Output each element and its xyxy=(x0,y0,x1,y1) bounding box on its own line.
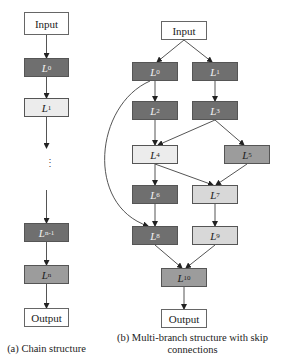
edge-l8-l10 xyxy=(155,245,182,268)
chain-input-node: Input xyxy=(24,12,69,35)
edge-l3-l4 xyxy=(158,120,215,145)
chain-node-l0: L0 xyxy=(24,58,69,77)
node-subscript: n-1 xyxy=(45,229,54,237)
chain-node-ln-1: Ln-1 xyxy=(24,223,69,242)
edge-input-l1 xyxy=(184,40,212,62)
chain-node-ln: Ln xyxy=(24,265,69,284)
mb-node-l0: L0 xyxy=(132,62,178,81)
chain-node-l1: L1 xyxy=(24,98,69,117)
mb-node-l3: L3 xyxy=(192,101,238,120)
mb-caption-line2: connections xyxy=(98,344,287,356)
node-subscript: 10 xyxy=(184,274,191,282)
node-subscript: 3 xyxy=(216,107,220,115)
edge-input-l0 xyxy=(157,40,184,62)
mb-input-node: Input xyxy=(161,21,207,40)
chain-input-label: Input xyxy=(35,18,58,30)
edge-l3-l5 xyxy=(215,120,244,145)
node-subscript: 0 xyxy=(48,64,52,72)
mb-node-l5: L5 xyxy=(224,145,270,164)
mb-node-l10: L10 xyxy=(161,268,207,287)
mb-node-l8: L8 xyxy=(132,226,178,245)
chain-output-label: Output xyxy=(31,312,62,324)
mb-node-l4: L4 xyxy=(132,145,178,164)
chain-output-node: Output xyxy=(24,308,69,327)
node-subscript: 0 xyxy=(156,68,160,76)
mb-node-l7: L7 xyxy=(192,185,238,204)
node-subscript: 2 xyxy=(156,107,160,115)
mb-node-l1: L1 xyxy=(192,62,238,81)
mb-output-node: Output xyxy=(161,309,207,328)
mb-input-label: Input xyxy=(172,25,195,37)
edge-l5-l7 xyxy=(216,164,247,185)
mb-node-l9: L9 xyxy=(192,226,238,245)
mb-node-l2: L2 xyxy=(132,101,178,120)
node-subscript: 6 xyxy=(156,191,160,199)
node-subscript: 5 xyxy=(248,151,252,159)
mb-node-l6: L6 xyxy=(132,185,178,204)
mb-caption: (b) Multi-branch structure with skip con… xyxy=(98,332,287,356)
node-subscript: 8 xyxy=(156,232,160,240)
edge-l9-l10 xyxy=(186,245,215,268)
edge-l4-l7 xyxy=(155,164,213,185)
node-subscript: 1 xyxy=(216,68,220,76)
node-subscript: 9 xyxy=(216,232,220,240)
node-subscript: 7 xyxy=(216,191,220,199)
node-subscript: n xyxy=(48,271,52,279)
node-subscript: 1 xyxy=(48,104,52,112)
node-subscript: 4 xyxy=(156,151,160,159)
mb-output-label: Output xyxy=(169,313,200,325)
chain-ellipsis: ⋮ xyxy=(45,160,49,165)
mb-caption-line1: (b) Multi-branch structure with skip xyxy=(98,332,287,344)
chain-caption: (a) Chain structure xyxy=(0,343,93,355)
